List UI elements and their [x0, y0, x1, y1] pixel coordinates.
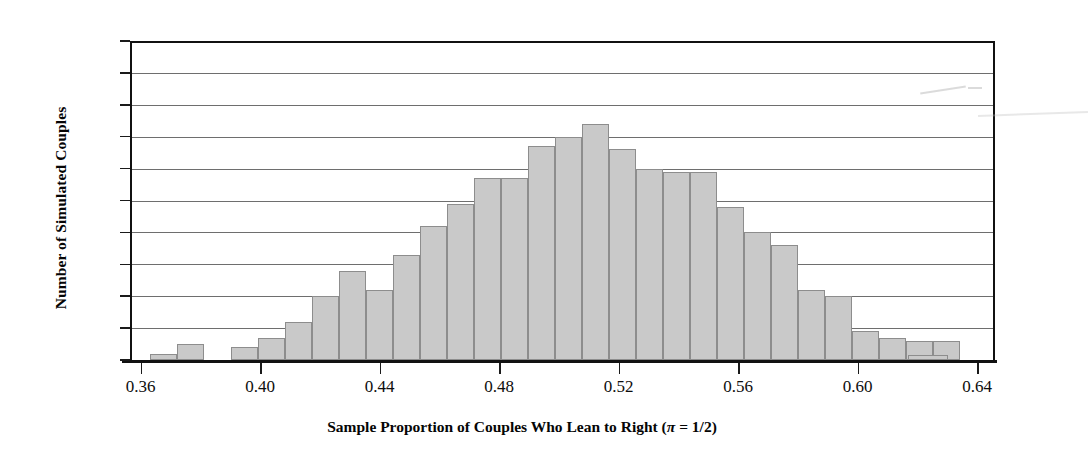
- x-axis-tick-label: 0.40: [215, 377, 305, 397]
- y-axis-tick: [120, 200, 130, 202]
- pi-symbol: π: [667, 418, 675, 435]
- plot-border-top: [130, 41, 995, 43]
- histogram-bar: [582, 124, 609, 360]
- y-axis-tick: [120, 136, 130, 138]
- histogram-bar: [285, 322, 312, 360]
- y-axis-tick: [120, 104, 130, 106]
- histogram-bar: [258, 338, 285, 360]
- x-axis-tick-label: 0.36: [96, 377, 186, 397]
- histogram-bar: [555, 137, 582, 360]
- x-axis-title-suffix: = 1/2): [675, 418, 717, 435]
- histogram-bar: [312, 296, 339, 360]
- histogram-bar: [609, 149, 636, 360]
- x-axis-tick: [977, 363, 979, 374]
- histogram-bar: [474, 178, 501, 360]
- histogram-bar: [717, 207, 744, 360]
- histogram-bar: [393, 255, 420, 360]
- plot-border-right: [993, 41, 995, 362]
- x-axis-tick-label: 0.60: [813, 377, 903, 397]
- y-axis-tick: [120, 232, 130, 234]
- histogram-bar: [528, 146, 555, 360]
- x-axis-tick-label: 0.56: [693, 377, 783, 397]
- x-axis-tick-label: 0.48: [454, 377, 544, 397]
- histogram-bar: [636, 169, 663, 360]
- x-axis-tick: [380, 363, 382, 374]
- scan-artifact-1: [920, 85, 966, 94]
- histogram-bar: [663, 172, 690, 360]
- x-axis-tick: [619, 363, 621, 374]
- y-axis-tick: [120, 168, 130, 170]
- y-axis-tick: [120, 359, 130, 361]
- y-axis-tick: [120, 327, 130, 329]
- histogram-bar: [447, 204, 474, 360]
- gridline: [132, 73, 993, 74]
- histogram-bar: [852, 331, 879, 360]
- y-axis-title: Number of Simulated Couples: [52, 48, 76, 368]
- histogram-bar: [825, 296, 852, 360]
- y-axis-tick: [120, 72, 130, 74]
- y-axis-line: [130, 41, 132, 362]
- plot-area: 0.360.400.440.480.520.560.600.64: [130, 41, 995, 360]
- y-axis-tick: [120, 295, 130, 297]
- x-axis-line: [122, 360, 997, 363]
- gridline: [132, 105, 993, 106]
- histogram-bar: [366, 290, 393, 360]
- histogram-bar: [744, 232, 771, 360]
- histogram-bar: [908, 355, 948, 360]
- histogram-bar: [420, 226, 447, 360]
- histogram-bar: [231, 347, 258, 360]
- scan-artifact-2: [968, 87, 982, 89]
- histogram-bar: [339, 271, 366, 360]
- x-axis-tick: [499, 363, 501, 374]
- histogram-bar: [177, 344, 204, 360]
- x-axis-title-prefix: Sample Proportion of Couples Who Lean to…: [327, 418, 667, 435]
- y-axis-tick: [120, 40, 130, 42]
- histogram-bar: [690, 172, 717, 360]
- x-axis-tick: [141, 363, 143, 374]
- histogram-bar: [798, 290, 825, 360]
- x-axis-tick: [858, 363, 860, 374]
- histogram-bar: [150, 354, 177, 360]
- y-axis-tick: [120, 264, 130, 266]
- x-axis-tick: [738, 363, 740, 374]
- x-axis-tick-label: 0.64: [932, 377, 1022, 397]
- histogram-bar: [501, 178, 528, 360]
- histogram-bar: [879, 338, 906, 360]
- x-axis-tick: [260, 363, 262, 374]
- x-axis-tick-label: 0.44: [335, 377, 425, 397]
- x-axis-title: Sample Proportion of Couples Who Lean to…: [0, 418, 1044, 436]
- x-axis-tick-label: 0.52: [574, 377, 664, 397]
- histogram-bar: [771, 245, 798, 360]
